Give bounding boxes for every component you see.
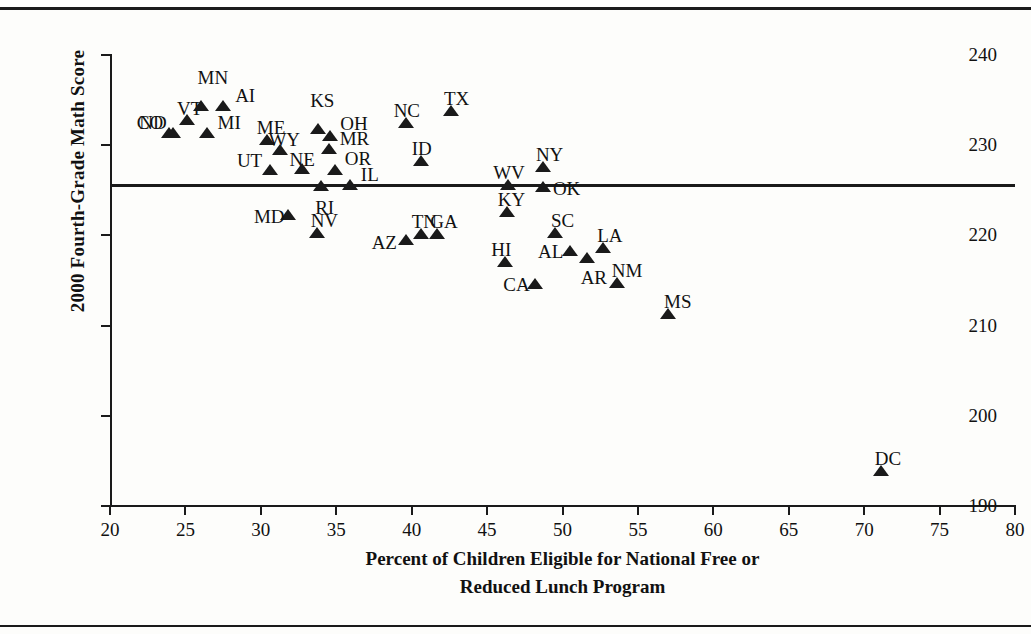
data-point-label: ID <box>412 139 432 158</box>
x-tick-mark <box>411 506 413 515</box>
data-point-label: TX <box>444 89 469 108</box>
data-point-marker[interactable] <box>193 100 209 111</box>
data-point-marker[interactable] <box>215 100 231 111</box>
data-point-label: MN <box>198 68 229 87</box>
data-point-marker[interactable] <box>322 130 338 141</box>
data-point-label: GA <box>430 212 457 231</box>
data-point-label: NC <box>394 101 420 120</box>
y-tick-label: 220 <box>969 225 998 244</box>
x-tick-mark <box>109 506 111 515</box>
data-point-marker[interactable] <box>342 179 358 190</box>
x-tick-mark <box>260 506 262 515</box>
x-tick-label: 60 <box>688 520 738 539</box>
data-point-marker[interactable] <box>165 127 181 138</box>
data-point-marker[interactable] <box>313 180 329 191</box>
data-point-label: NE <box>290 150 315 169</box>
data-point-label: AI <box>235 86 255 105</box>
data-point-marker[interactable] <box>199 127 215 138</box>
x-tick-label: 30 <box>236 520 286 539</box>
y-tick-label: 230 <box>969 135 998 154</box>
x-tick-mark <box>788 506 790 515</box>
data-point-label: NY <box>536 145 563 164</box>
data-point-label: NV <box>311 211 338 230</box>
x-tick-mark <box>335 506 337 515</box>
x-tick-label: 70 <box>839 520 889 539</box>
x-tick-mark <box>1014 506 1016 515</box>
x-tick-label: 55 <box>613 520 663 539</box>
data-point-label: LA <box>597 226 622 245</box>
data-point-label: WV <box>493 163 525 182</box>
x-tick-label: 40 <box>387 520 437 539</box>
data-point-label: AR <box>581 268 607 287</box>
data-point-label: AZ <box>372 233 397 252</box>
data-point-label: MD <box>254 207 285 226</box>
x-tick-label: 25 <box>160 520 210 539</box>
data-point-label: IL <box>361 165 379 184</box>
x-tick-mark <box>486 506 488 515</box>
data-point-label: CA <box>503 275 529 294</box>
y-tick-label: 200 <box>969 406 998 425</box>
y-axis-title: 2000 Fourth-Grade Math Score <box>67 21 89 341</box>
data-point-marker[interactable] <box>327 164 343 175</box>
bottom-divider-rule <box>0 625 1031 627</box>
x-tick-mark <box>863 506 865 515</box>
plot-area: 190200210220230240 202530354045505560657… <box>110 55 1015 506</box>
y-tick-mark <box>101 325 110 327</box>
x-tick-mark <box>712 506 714 515</box>
x-tick-label: 65 <box>764 520 814 539</box>
y-tick-mark <box>101 54 110 56</box>
top-divider-rule <box>0 7 1031 10</box>
x-tick-label: 35 <box>311 520 361 539</box>
data-point-label: NM <box>612 261 643 280</box>
data-point-label: MR <box>340 129 370 148</box>
y-tick-mark <box>101 234 110 236</box>
scatter-chart: 2000 Fourth-Grade Math Score Percent of … <box>0 0 1031 634</box>
data-point-label: KY <box>498 190 525 209</box>
data-point-label: KS <box>310 91 334 110</box>
x-axis-title-line1: Percent of Children Eligible for Nationa… <box>110 545 1015 573</box>
data-point-label: WY <box>268 130 300 149</box>
data-point-marker[interactable] <box>562 245 578 256</box>
data-point-marker[interactable] <box>262 164 278 175</box>
y-tick-label: 240 <box>969 45 998 64</box>
x-tick-label: 50 <box>538 520 588 539</box>
data-point-label: MS <box>664 292 691 311</box>
data-point-marker[interactable] <box>398 234 414 245</box>
data-point-label: DC <box>875 449 901 468</box>
data-point-marker[interactable] <box>579 252 595 263</box>
data-point-label: HI <box>491 240 511 259</box>
x-axis-title: Percent of Children Eligible for Nationa… <box>110 545 1015 601</box>
x-tick-mark <box>939 506 941 515</box>
x-tick-mark <box>184 506 186 515</box>
x-tick-mark <box>562 506 564 515</box>
y-tick-label: 210 <box>969 316 998 335</box>
x-axis-title-line2: Reduced Lunch Program <box>110 573 1015 601</box>
data-point-label: AL <box>538 242 563 261</box>
data-point-label: UT <box>237 151 262 170</box>
x-tick-label: 75 <box>915 520 965 539</box>
x-tick-label: 80 <box>990 520 1031 539</box>
y-tick-mark <box>101 144 110 146</box>
data-point-label: ND <box>139 113 166 132</box>
data-point-label: MI <box>218 113 241 132</box>
x-tick-mark <box>637 506 639 515</box>
data-point-label: SC <box>551 211 574 230</box>
x-tick-label: 20 <box>85 520 135 539</box>
data-point-marker[interactable] <box>321 143 337 154</box>
x-tick-label: 45 <box>462 520 512 539</box>
data-point-marker[interactable] <box>535 181 551 192</box>
data-point-label: OK <box>553 179 580 198</box>
y-tick-label: 190 <box>969 496 998 515</box>
y-tick-mark <box>101 415 110 417</box>
